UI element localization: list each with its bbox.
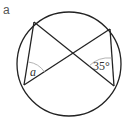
circle-theorem-diagram: a 35°: [0, 0, 126, 122]
chord-bl-tr: [24, 29, 110, 85]
angle-label-35: 35°: [93, 59, 110, 73]
chord-tl-br: [34, 22, 114, 86]
angle-label-a: a: [30, 65, 36, 79]
